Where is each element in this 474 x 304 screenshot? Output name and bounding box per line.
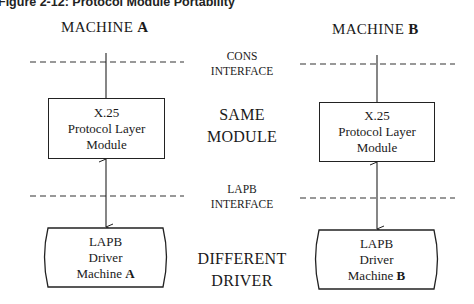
lapb-driver-b: LAPB Driver Machine B (319, 230, 434, 289)
machine-b-label: MACHINE B (332, 21, 418, 38)
protocol-module-box-a: X.25 Protocol Layer Module (48, 98, 165, 159)
lapb-driver-a: LAPB Driver Machine A (48, 228, 163, 287)
different-driver-label: DIFFERENT DRIVER (182, 248, 302, 292)
lapb-interface-label: LAPB INTERFACE (187, 182, 297, 212)
protocol-module-box-b: X.25 Protocol Layer Module (319, 102, 435, 162)
same-module-label: SAME MODULE (182, 104, 302, 148)
cons-interface-label: CONS INTERFACE (187, 49, 297, 79)
machine-a-label: MACHINE A (61, 19, 148, 36)
